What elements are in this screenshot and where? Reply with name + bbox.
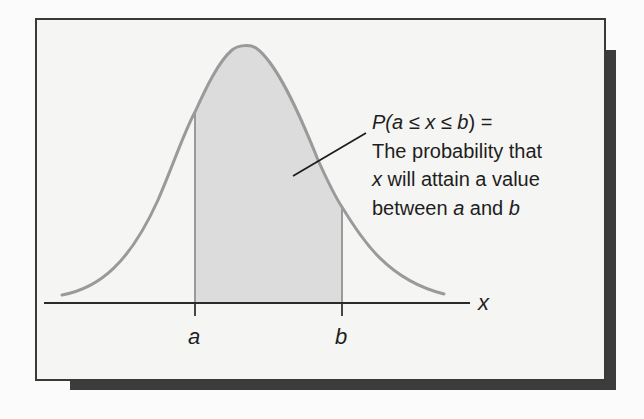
probability-annotation: P(a ≤ x ≤ b) = The probability that x wi… [372, 108, 542, 222]
x-axis-label: x [478, 292, 489, 314]
formula-le-1: ≤ [403, 111, 425, 133]
formula-a: a [392, 111, 403, 133]
formula-prefix: P( [372, 111, 392, 133]
shaded-probability-area [195, 46, 342, 303]
formula-le-2: ≤ [435, 111, 457, 133]
normal-curve-diagram [0, 0, 644, 419]
formula-x: x [425, 111, 435, 133]
annotation-and: and [464, 197, 508, 219]
annotation-line-3: x will attain a value [372, 165, 542, 194]
formula-b: b [457, 111, 468, 133]
b-label: b [335, 326, 347, 348]
annotation-line-3-text: will attain a value [382, 168, 540, 190]
formula-suffix: ) = [468, 111, 492, 133]
annotation-between: between [372, 197, 453, 219]
annotation-a-var: a [453, 197, 464, 219]
annotation-line-2: The probability that [372, 137, 542, 166]
a-label: a [188, 326, 200, 348]
annotation-b-var: b [509, 197, 520, 219]
annotation-x-var: x [372, 168, 382, 190]
annotation-line-4: between a and b [372, 194, 542, 223]
annotation-formula: P(a ≤ x ≤ b) = [372, 108, 542, 137]
